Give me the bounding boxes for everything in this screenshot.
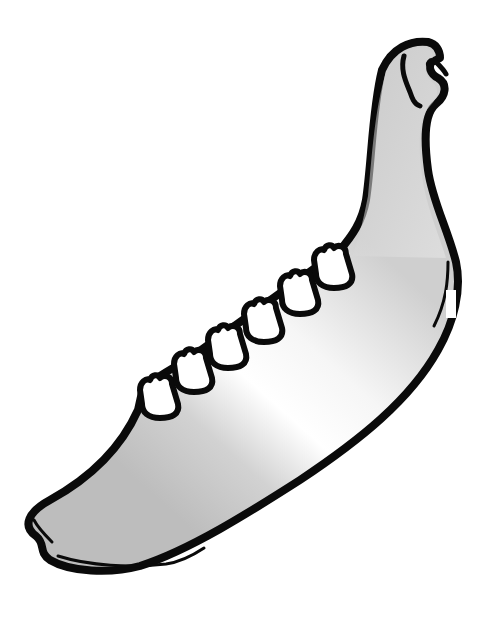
mandible-illustration [0, 0, 496, 631]
tooth-5 [280, 271, 318, 314]
tooth-2 [174, 349, 212, 392]
illustration-canvas: Line illustration of a lower jaw bone (m… [0, 0, 496, 631]
tooth-1 [140, 375, 178, 418]
tooth-6 [314, 245, 352, 288]
tooth-3 [208, 325, 246, 368]
gap-mark [446, 290, 456, 318]
tooth-4 [244, 299, 282, 342]
